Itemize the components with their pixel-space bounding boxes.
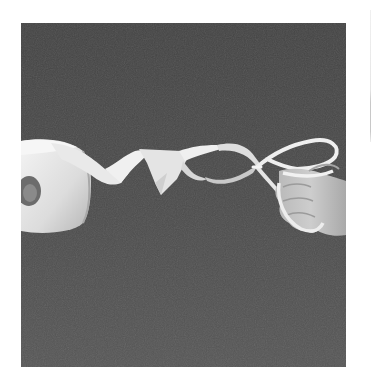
tape-photo-illustration (21, 23, 346, 367)
page-edge-line (370, 10, 371, 142)
photo (21, 23, 346, 367)
